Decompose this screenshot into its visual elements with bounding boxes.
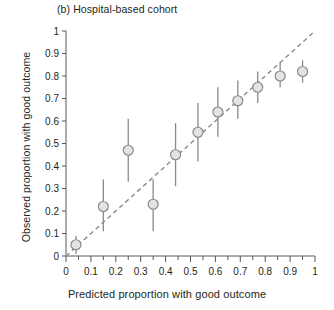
data-point: [275, 71, 285, 81]
x-axis-tick-label: 0.5: [184, 266, 198, 277]
data-point: [123, 145, 133, 155]
y-axis-tick-label: 0.6: [45, 116, 59, 127]
y-axis-tick-label: 0.5: [45, 138, 59, 149]
data-point: [98, 202, 108, 212]
data-point: [71, 240, 81, 250]
x-axis-tick-label: 0.3: [134, 266, 148, 277]
data-series: [71, 60, 308, 254]
y-axis-tick-label: 0.2: [45, 206, 59, 217]
x-axis-tick-label: 0: [63, 266, 69, 277]
x-axis-tick-label: 0.1: [84, 266, 98, 277]
data-point: [253, 82, 263, 92]
plot-area: 00.10.20.30.40.50.60.70.80.9100.10.20.30…: [0, 0, 334, 310]
x-axis-tick-label: 0.4: [159, 266, 173, 277]
y-axis-tick-label: 0: [53, 251, 59, 262]
data-point: [213, 107, 223, 117]
y-axis-tick-label: 0.9: [45, 48, 59, 59]
data-point: [233, 96, 243, 106]
y-axis-tick-label: 0.7: [45, 93, 59, 104]
x-axis-tick-label: 1: [312, 266, 318, 277]
y-axis-tick-label: 0.1: [45, 228, 59, 239]
x-axis-tick-label: 0.7: [233, 266, 247, 277]
x-axis-tick-label: 0.2: [109, 266, 123, 277]
y-axis-tick-label: 0.4: [45, 161, 59, 172]
x-axis-tick-label: 0.6: [208, 266, 222, 277]
data-point: [298, 67, 308, 77]
x-axis-tick-label: 0.8: [258, 266, 272, 277]
y-axis-tick-label: 1: [53, 26, 59, 37]
data-point: [193, 127, 203, 137]
y-axis-tick-label: 0.8: [45, 71, 59, 82]
data-point: [171, 150, 181, 160]
x-axis-tick-label: 0.9: [283, 266, 297, 277]
calibration-plot-figure: (b) Hospital-based cohort Observed propo…: [0, 0, 334, 310]
x-axis-label: Predicted proportion with good outcome: [0, 288, 334, 300]
y-axis-tick-label: 0.3: [45, 183, 59, 194]
data-point: [148, 199, 158, 209]
